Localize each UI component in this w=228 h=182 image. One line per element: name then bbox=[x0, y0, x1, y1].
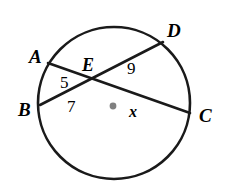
segment-measure-ae: 5 bbox=[60, 74, 69, 91]
geometry-canvas bbox=[0, 0, 228, 182]
intersection-label-e: E bbox=[82, 56, 94, 74]
circle-center-dot bbox=[110, 103, 117, 110]
vertex-label-d: D bbox=[167, 21, 181, 40]
circle-geometry-figure: A B C D E 5 9 7 x bbox=[0, 0, 228, 182]
vertex-label-b: B bbox=[18, 100, 31, 119]
segment-measure-be: 7 bbox=[67, 98, 76, 115]
vertex-label-c: C bbox=[199, 106, 212, 125]
segment-measure-ec-unknown: x bbox=[129, 104, 137, 120]
vertex-label-a: A bbox=[29, 47, 42, 66]
segment-measure-ed: 9 bbox=[127, 60, 136, 77]
